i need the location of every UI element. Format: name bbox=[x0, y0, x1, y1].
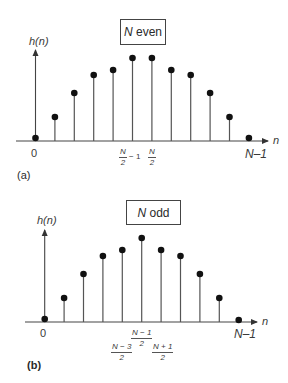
tick-label-n-minus-1-over-2: N − 1 2 bbox=[131, 329, 152, 348]
tick-label-n-over-2: N 2 bbox=[148, 148, 156, 167]
stem-dot bbox=[110, 67, 117, 74]
stem-dot bbox=[168, 67, 175, 74]
panel-a-plot bbox=[16, 50, 268, 141]
panel-b-plot bbox=[25, 230, 257, 323]
stem-dot bbox=[52, 114, 59, 121]
stem-dot bbox=[100, 253, 107, 260]
panel-tag-b: (b) bbox=[27, 359, 41, 371]
stem-dot bbox=[177, 253, 184, 260]
tick-label-n-plus-1-over-2: N + 1 2 bbox=[152, 343, 173, 362]
stem-dot bbox=[119, 247, 126, 254]
box-label-text: odd bbox=[146, 206, 169, 220]
stem-dot bbox=[246, 135, 253, 142]
stem-dot bbox=[226, 114, 233, 121]
stem-dot bbox=[61, 295, 68, 302]
stems-a bbox=[32, 55, 252, 142]
stem-dot bbox=[129, 55, 136, 62]
panel-tag-a: (a) bbox=[17, 169, 30, 181]
end-label: N–1 bbox=[245, 148, 267, 160]
x-axis-label: n bbox=[262, 316, 268, 327]
stem-dot bbox=[90, 72, 97, 79]
stem-dot bbox=[149, 55, 156, 62]
tick-label-n-minus-3-over-2: N − 3 2 bbox=[111, 343, 132, 362]
origin-label: 0 bbox=[31, 148, 37, 159]
stem-dot bbox=[216, 295, 223, 302]
n-even-box: N even bbox=[120, 19, 166, 45]
minus-one-label: − 1 bbox=[129, 153, 140, 161]
stem-dot bbox=[138, 235, 145, 242]
stems-b bbox=[41, 235, 242, 324]
x-axis-label: n bbox=[273, 135, 279, 146]
origin-label: 0 bbox=[40, 328, 46, 339]
stem-plots bbox=[0, 0, 288, 383]
stem-dot bbox=[41, 316, 48, 323]
y-axis-label: h(n) bbox=[37, 215, 57, 226]
stem-dot bbox=[197, 271, 204, 278]
stem-dot bbox=[158, 247, 165, 254]
n-odd-box: N odd bbox=[126, 200, 181, 225]
stem-dot bbox=[207, 90, 214, 97]
box-label-text: even bbox=[133, 25, 162, 39]
end-label: N–1 bbox=[234, 328, 256, 340]
stem-dot bbox=[187, 72, 194, 79]
y-axis-label: h(n) bbox=[29, 36, 49, 47]
box-label-n: N bbox=[124, 25, 133, 39]
stem-dot bbox=[32, 135, 39, 142]
stem-dot bbox=[235, 317, 242, 324]
stem-dot bbox=[80, 271, 87, 278]
box-label-n: N bbox=[137, 206, 146, 220]
tick-label-n-over-2-minus-1: N 2 bbox=[119, 148, 127, 167]
stem-dot bbox=[71, 90, 78, 97]
